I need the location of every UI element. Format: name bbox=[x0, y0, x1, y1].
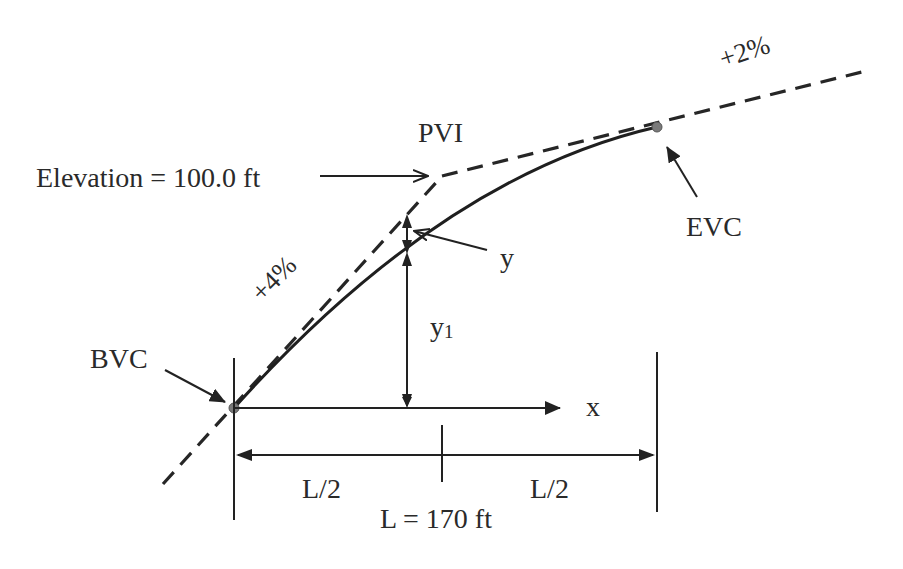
y-label: y bbox=[500, 242, 514, 273]
grade-out-label: +2% bbox=[716, 29, 774, 73]
elevation-label: Elevation = 100.0 ft bbox=[36, 162, 260, 193]
length-arrow-left bbox=[236, 449, 252, 461]
y1-arrow-head-bottom bbox=[402, 394, 412, 408]
half-length-right-label: L/2 bbox=[530, 473, 569, 504]
bvc-label: BVC bbox=[90, 343, 148, 374]
grade-in-label: +4% bbox=[245, 250, 302, 307]
y1-label-subscript: 1 bbox=[444, 321, 454, 342]
evc-label: EVC bbox=[686, 211, 742, 242]
half-length-left-label: L/2 bbox=[302, 473, 341, 504]
tangent-in-line bbox=[163, 176, 442, 484]
y1-arrow-head-top bbox=[402, 252, 412, 266]
y1-label-base: y bbox=[430, 311, 444, 342]
evc-leader-arrow bbox=[667, 147, 697, 197]
x-label: x bbox=[586, 391, 600, 422]
evc-point bbox=[652, 122, 662, 132]
y-leader-arrow bbox=[414, 231, 487, 250]
pvi-label: PVI bbox=[418, 117, 463, 148]
y1-label: y1 bbox=[430, 311, 454, 342]
length-arrow-right bbox=[639, 449, 655, 461]
y-arrow-head-top bbox=[402, 214, 412, 228]
vertical-curve-diagram: Elevation = 100.0 ft PVI EVC BVC +4% +2%… bbox=[0, 0, 903, 569]
bvc-leader-arrow bbox=[165, 370, 225, 402]
curve-length-label: L = 170 ft bbox=[380, 503, 492, 534]
